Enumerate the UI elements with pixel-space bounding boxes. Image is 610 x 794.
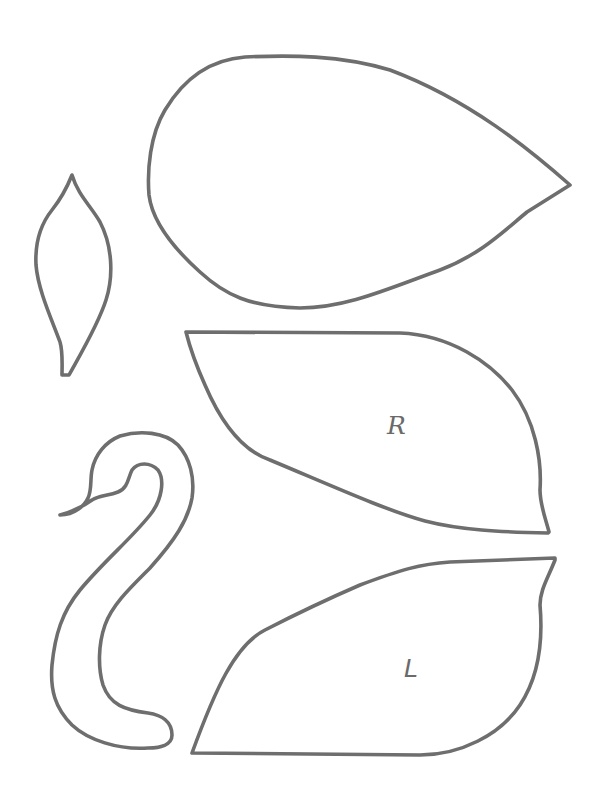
neck-head-piece (52, 433, 193, 748)
body-piece (148, 56, 570, 308)
tail-feather-piece (36, 175, 111, 375)
left-wing-piece (192, 558, 555, 755)
right-wing-piece (186, 332, 549, 533)
template-canvas (0, 0, 610, 794)
